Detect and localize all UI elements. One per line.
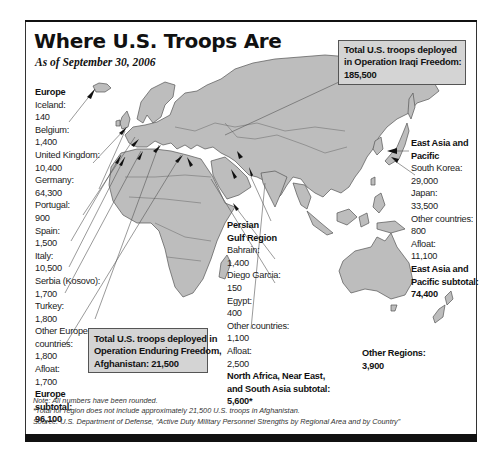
europe-turkey-value: 1,800: [35, 313, 100, 326]
gulf-diego-value: 150: [227, 282, 330, 295]
gulf-heading: Persian: [227, 219, 330, 232]
gulf-other-value: 1,100: [227, 332, 330, 345]
iraq-callout-value: 185,500: [344, 69, 460, 81]
footer-notes: Note: All numbers have been rounded. *To…: [33, 396, 400, 427]
bottom-frame-bar: [25, 434, 477, 442]
uk-shape: [120, 111, 130, 129]
afghanistan-callout: Total U.S. troops deployed in Operation …: [88, 328, 208, 373]
gulf-heading2: Gulf Region: [227, 232, 330, 245]
iraq-callout-line2: in Operation Iraqi Freedom:: [344, 56, 460, 68]
europe-list: Europe Iceland: 140 Belgium: 1,400 Unite…: [35, 86, 100, 426]
afghanistan-callout-line2: Operation Enduring Freedom,: [94, 345, 202, 357]
gulf-egypt-label: Egypt:: [227, 295, 330, 308]
gulf-subtotal-label: North Africa, Near East,: [227, 370, 330, 383]
east-asia-other-value: 800: [411, 225, 479, 238]
east-asia-heading: East Asia and: [411, 137, 479, 150]
east-asia-japan-label: Japan:: [411, 187, 479, 200]
gulf-egypt-value: 400: [227, 307, 330, 320]
gulf-afloat-label: Afloat:: [227, 345, 330, 358]
page-subtitle: As of September 30, 2006: [35, 56, 155, 68]
australia-shape: [339, 233, 413, 299]
europe-serbia-label: Serbia (Kosovo):: [35, 275, 100, 288]
east-asia-korea-label: South Korea:: [411, 162, 479, 175]
europe-germany-label: Germany:: [35, 174, 100, 187]
other-regions-label: Other Regions:: [362, 347, 426, 360]
note-footnote: *Total for region does not include appro…: [33, 406, 400, 416]
afghanistan-callout-value: Afghanistan: 21,500: [94, 358, 202, 370]
europe-spain-label: Spain:: [35, 225, 100, 238]
europe-iceland-value: 140: [35, 111, 100, 124]
europe-spain-value: 1,500: [35, 237, 100, 250]
europe-uk-label: United Kingdom:: [35, 149, 100, 162]
gulf-bahrain-value: 1,400: [227, 257, 330, 270]
east-asia-afloat-value: 11,100: [411, 250, 479, 263]
gulf-diego-label: Diego Garcia:: [227, 269, 330, 282]
east-asia-afloat-label: Afloat:: [411, 238, 479, 251]
east-asia-subtotal-label2: Pacific subtotal:: [411, 276, 479, 289]
gulf-subtotal-label2: and South Asia subtotal:: [227, 383, 330, 396]
east-asia-subtotal-label: East Asia and: [411, 263, 479, 276]
east-asia-other-label: Other countries:: [411, 213, 479, 226]
persian-gulf-list: Persian Gulf Region Bahrain: 1,400 Diego…: [227, 219, 330, 408]
europe-belgium-value: 1,400: [35, 136, 100, 149]
page-title: Where U.S. Troops Are: [34, 29, 282, 53]
note-rounded: Note: All numbers have been rounded.: [33, 396, 400, 406]
iraq-callout: Total U.S. troops deployed in Operation …: [338, 40, 466, 85]
europe-portugal-value: 900: [35, 212, 100, 225]
iraq-callout-line1: Total U.S. troops deployed: [344, 44, 460, 56]
east-asia-list: East Asia and Pacific South Korea: 29,00…: [411, 137, 479, 301]
note-source: Source: U.S. Department of Defense, “Act…: [33, 417, 400, 427]
europe-germany-value: 64,300: [35, 187, 100, 200]
europe-iceland-label: Iceland:: [35, 99, 100, 112]
europe-serbia-value: 1,700: [35, 288, 100, 301]
east-asia-heading2: Pacific: [411, 150, 479, 163]
gulf-other-label: Other countries:: [227, 320, 330, 333]
europe-afloat-value: 1,700: [35, 376, 100, 389]
east-asia-japan-value: 33,500: [411, 200, 479, 213]
east-asia-korea-value: 29,000: [411, 175, 479, 188]
afghanistan-callout-line1: Total U.S. troops deployed in: [94, 333, 202, 345]
europe-italy-value: 10,500: [35, 262, 100, 275]
gulf-bahrain-label: Bahrain:: [227, 244, 330, 257]
east-asia-subtotal-value: 74,400: [411, 288, 479, 301]
other-regions-value: 3,900: [362, 360, 426, 373]
gulf-afloat-value: 2,500: [227, 358, 330, 371]
europe-belgium-label: Belgium:: [35, 124, 100, 137]
europe-heading: Europe: [35, 86, 100, 99]
europe-italy-label: Italy:: [35, 250, 100, 263]
europe-uk-value: 10,400: [35, 162, 100, 175]
europe-portugal-label: Portugal:: [35, 199, 100, 212]
other-regions: Other Regions: 3,900: [362, 347, 426, 372]
europe-turkey-label: Turkey:: [35, 300, 100, 313]
